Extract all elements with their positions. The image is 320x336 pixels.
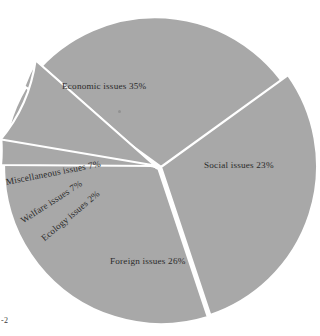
pie-label-foreign: Foreign issues 26%	[110, 257, 186, 266]
pie-label-economic: Economic issues 35%	[62, 82, 146, 91]
scan-speck-icon	[118, 110, 121, 113]
figure-caption-fragment: -2	[1, 316, 8, 325]
pie-label-social: Social issues 23%	[204, 161, 274, 170]
pie-chart-figure: Economic issues 35% Social issues 23% Fo…	[0, 0, 320, 336]
